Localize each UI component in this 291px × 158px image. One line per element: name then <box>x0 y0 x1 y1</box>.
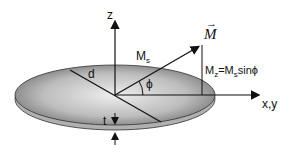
ms-label: Ms <box>136 50 150 65</box>
diameter-label: d <box>88 68 95 80</box>
xy-axis-label: x,y <box>262 98 277 110</box>
vector-label: →M <box>204 27 217 42</box>
magnetic-disk-diagram: z x,y →M Ms Mz=Mssinϕ ϕ d t <box>0 0 291 158</box>
angle-label: ϕ <box>146 78 153 90</box>
mz-equation-label: Mz=Mssinϕ <box>205 65 258 79</box>
z-axis-label: z <box>107 9 113 21</box>
thickness-label: t <box>103 115 106 127</box>
